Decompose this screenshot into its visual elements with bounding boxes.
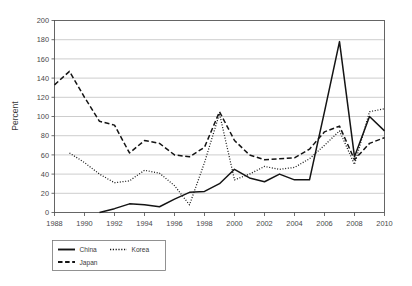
legend-frame [53,241,166,271]
chart-figure: 020406080100120140160180200 198819901992… [0,0,412,286]
x-tick-label: 2008 [346,219,362,228]
data-series-group [55,42,385,213]
y-tick-label: 0 [45,208,49,217]
x-tick-label: 2010 [376,219,392,228]
legend-label-japan: Japan [80,259,98,267]
y-tick-label: 40 [41,170,49,179]
y-tick-label: 60 [41,151,49,160]
series-line-korea [70,109,385,205]
x-tick-label: 2002 [256,219,272,228]
y-tick-label: 140 [37,74,49,83]
y-tick-label: 100 [37,112,49,121]
y-tick-label: 80 [41,131,49,140]
y-tick-label: 180 [37,35,49,44]
legend-label-china: China [80,246,98,253]
y-tick-label: 160 [37,55,49,64]
x-tick-label: 2000 [226,219,242,228]
x-tick-label: 2004 [286,219,302,228]
x-axis-tick-group: 1988199019921994199619982000200220042006… [46,213,392,228]
y-tick-label: 20 [41,189,49,198]
chart-legend: ChinaKoreaJapan [53,241,166,271]
y-tick-label: 200 [37,16,49,25]
y-axis-title: Percent [10,101,20,131]
x-tick-label: 2006 [316,219,332,228]
x-tick-label: 1990 [76,219,92,228]
x-tick-label: 1988 [46,219,62,228]
y-tick-label: 120 [37,93,49,102]
y-axis-tick-group: 020406080100120140160180200 [37,16,55,217]
line-chart: 020406080100120140160180200 198819901992… [0,0,412,286]
legend-label-korea: Korea [132,246,150,253]
x-tick-label: 1992 [106,219,122,228]
x-tick-label: 1998 [196,219,212,228]
x-tick-label: 1994 [136,219,152,228]
series-line-china [100,42,385,213]
x-tick-label: 1996 [166,219,182,228]
